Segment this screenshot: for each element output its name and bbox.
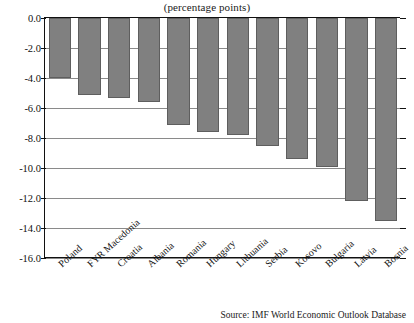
right-axis-tick-mark (400, 48, 406, 49)
bar (78, 18, 100, 95)
y-axis-tick-label: -14.0 (1, 223, 41, 234)
right-axis-tick-mark (400, 168, 406, 169)
y-axis-tick-mark (41, 108, 46, 109)
y-axis-tick-label: 0.0 (1, 13, 41, 24)
y-axis-tick-mark (41, 18, 46, 19)
chart-page: (percentage points) 0.0-2.0-4.0-6.0-8.0-… (0, 0, 414, 323)
right-axis-tick-marks (400, 18, 408, 258)
y-axis-tick-mark (41, 138, 46, 139)
y-axis-tick-mark (41, 48, 46, 49)
y-axis-tick-label: -6.0 (1, 103, 41, 114)
bar (316, 18, 338, 167)
bar (167, 18, 189, 125)
bar (286, 18, 308, 159)
bar (108, 18, 130, 98)
bar (197, 18, 219, 132)
y-axis-tick-label: -4.0 (1, 73, 41, 84)
y-axis-tick-mark (41, 78, 46, 79)
gridline (45, 228, 401, 229)
right-axis-tick-mark (400, 108, 406, 109)
y-axis-tick-label: -12.0 (1, 193, 41, 204)
right-axis-tick-mark (400, 78, 406, 79)
bar (345, 18, 367, 201)
y-axis-tick-label: -2.0 (1, 43, 41, 54)
y-axis-tick-mark (41, 228, 46, 229)
right-axis-tick-mark (400, 18, 406, 19)
plot-area (44, 18, 400, 258)
y-axis-tick-labels: 0.0-2.0-4.0-6.0-8.0-10.0-12.0-14.0-16.0 (0, 18, 41, 258)
bar (49, 18, 71, 78)
y-axis-tick-label: -10.0 (1, 163, 41, 174)
y-axis-tick-mark (41, 198, 46, 199)
y-axis-tick-label: -8.0 (1, 133, 41, 144)
right-axis-tick-mark (400, 198, 406, 199)
source-note: Source: IMF World Economic Outlook Datab… (0, 310, 406, 320)
bar (256, 18, 278, 146)
bar (227, 18, 249, 135)
y-axis-tick-mark (41, 168, 46, 169)
chart-title: (percentage points) (0, 1, 414, 13)
bar (375, 18, 397, 221)
bar (138, 18, 160, 102)
y-axis-tick-label: -16.0 (1, 253, 41, 264)
right-axis-tick-mark (400, 138, 406, 139)
right-axis-tick-mark (400, 228, 406, 229)
